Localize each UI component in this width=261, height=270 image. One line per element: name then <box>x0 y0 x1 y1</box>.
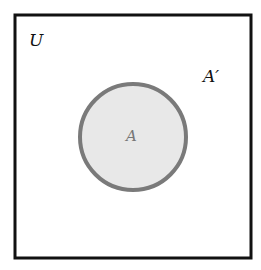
complement-label: A′ <box>201 66 219 86</box>
set-a-label: A <box>124 127 137 145</box>
venn-diagram: U A′ A <box>0 0 261 270</box>
universe-label: U <box>29 30 44 50</box>
